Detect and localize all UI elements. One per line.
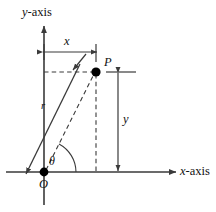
y-axis-label-suffix: -axis: [28, 5, 52, 19]
x-axis-label-suffix: -axis: [186, 164, 210, 178]
diagram-canvas: [0, 0, 216, 212]
origin-marker: [40, 168, 49, 177]
point-p-label: P: [104, 56, 112, 69]
angle-label: θ: [49, 155, 55, 167]
y-dimension-line: [106, 72, 136, 171]
angle-arc: [59, 144, 76, 172]
x-axis-label: x-axis: [180, 165, 210, 178]
point-p-marker: [91, 67, 100, 76]
y-axis-label: y-axis: [22, 6, 52, 19]
radius-tip-leader: [73, 54, 86, 70]
origin-label: O: [39, 178, 48, 191]
polar-coordinate-diagram: y-axis x-axis x y r θ P O: [0, 0, 216, 212]
x-dimension-line: [43, 44, 97, 62]
y-distance-label: y: [123, 113, 129, 126]
x-distance-label: x: [64, 35, 70, 48]
radius-label: r: [41, 101, 45, 112]
